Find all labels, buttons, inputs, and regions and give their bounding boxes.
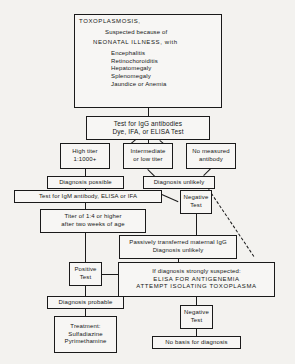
connector-igm-to-negative-upper: [162, 194, 179, 202]
igg-test-line-2: Dye, IFA, or ELISA Test: [112, 128, 183, 136]
intermediate-titer-line-2: or low titer: [133, 156, 162, 164]
header-line-1: TOXOPLASMOSIS,: [79, 18, 141, 26]
node-igg-test: Test for IgG antibodies Dye, IFA, or ELI…: [86, 116, 210, 140]
connector-positive-to-suspected: [102, 274, 118, 275]
strongly-suspected-line-3: ATTEMPT ISOLATING TOXOPLASMA: [136, 283, 256, 291]
igg-test-line-1: Test for IgG antibodies: [114, 120, 183, 128]
maternal-igg-line-1: Passively transferred maternal IgG: [129, 239, 226, 247]
connector-suspected-to-negative-lower: [196, 297, 197, 305]
no-antibody-line-1: No measured: [192, 148, 230, 156]
node-strongly-suspected: If diagnosis strongly suspected: ELISA F…: [118, 262, 275, 297]
connector-header-to-igg: [148, 108, 149, 116]
symptom-retinochoroiditis: Retinochoroiditis: [79, 58, 158, 66]
node-no-measured-antibody: No measured antibody: [186, 143, 236, 169]
connector-positive-down: [85, 286, 86, 296]
node-negative-test-upper: Negative Test: [180, 190, 212, 214]
treatment-line-2: Sulfadiazine: [68, 331, 103, 339]
connector-negative-lower-down: [196, 329, 197, 336]
node-diagnosis-unlikely-right: Diagnosis unlikely: [143, 176, 215, 189]
positive-test-line-1: Positive: [74, 266, 96, 274]
node-maternal-igg: Passively transferred maternal IgG Diagn…: [119, 235, 237, 259]
no-antibody-line-2: antibody: [199, 156, 223, 164]
titer-age-line-1: Titer of 1:4 or higher: [64, 213, 121, 221]
node-intermediate-titer: Intermediate or low titer: [123, 143, 173, 169]
node-no-basis-for-diagnosis: No basis for diagnosis: [152, 336, 241, 349]
connector-no-antibody-to-unlikely: [203, 168, 211, 176]
diagnosis-unlikely-right-label: Diagnosis unlikely: [154, 179, 205, 187]
node-diagnosis-probable: Diagnosis probable: [47, 296, 124, 309]
flowchart-canvas: TOXOPLASMOSIS, Suspected because of NEON…: [0, 0, 295, 364]
high-titer-line-2: 1:1000+: [74, 156, 97, 164]
header-line-3: NEONATAL ILLNESS, with: [79, 39, 178, 47]
node-igm-test: Test for IgM antibody, ELISA or IFA: [14, 190, 162, 203]
node-titer-age: Titer of 1:4 or higher after two weeks o…: [40, 209, 146, 233]
symptom-hepatomegaly: Hepatomegaly: [79, 65, 152, 73]
symptom-jaundice-anemia: Jaundice or Anemia: [79, 81, 166, 89]
node-high-titer: High titer 1:1000+: [60, 143, 110, 169]
treatment-line-1: Treatment:: [70, 323, 100, 331]
node-positive-test: Positive Test: [69, 262, 102, 286]
maternal-igg-line-2: Diagnosis unlikely: [153, 247, 204, 255]
node-negative-test-lower: Negative Test: [180, 305, 213, 329]
strongly-suspected-line-1: If diagnosis strongly suspected:: [152, 268, 241, 276]
header-line-2: Suspected because of: [79, 29, 167, 37]
connector-high-titer-down: [85, 169, 86, 176]
no-basis-label: No basis for diagnosis: [165, 339, 227, 347]
diagnosis-possible-label: Diagnosis possible: [59, 179, 112, 187]
diagnosis-probable-label: Diagnosis probable: [58, 299, 112, 307]
strongly-suspected-line-2: ELISA FOR ANTIGENEMIA: [153, 276, 239, 284]
negative-test-lower-line-1: Negative: [184, 309, 209, 317]
intermediate-titer-line-1: Intermediate: [130, 148, 165, 156]
connector-probable-to-treatment: [85, 309, 86, 316]
negative-test-upper-line-1: Negative: [184, 194, 209, 202]
positive-test-line-2: Test: [80, 274, 92, 282]
node-diagnosis-possible: Diagnosis possible: [47, 176, 124, 189]
node-treatment: Treatment: Sulfadiazine Pyrimethamine: [54, 316, 117, 353]
symptom-splenomegaly: Splenomegaly: [79, 73, 151, 81]
igm-test-label: Test for IgM antibody, ELISA or IFA: [39, 193, 137, 201]
node-toxoplasmosis-header: TOXOPLASMOSIS, Suspected because of NEON…: [74, 14, 222, 108]
titer-age-line-2: after two weeks of age: [61, 221, 124, 229]
symptom-encephalitis: Encephalitis: [79, 50, 145, 58]
high-titer-line-1: High titer: [72, 148, 98, 156]
negative-test-upper-line-2: Test: [190, 202, 202, 210]
treatment-line-3: Pyrimethamine: [65, 338, 107, 346]
negative-test-lower-line-2: Test: [191, 317, 203, 325]
